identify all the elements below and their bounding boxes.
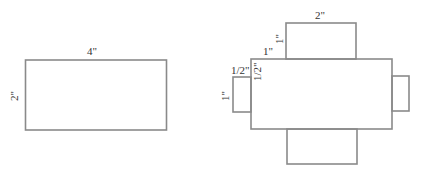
net-figure: 2" 1" 1" 1/2" 1/2" 1" <box>219 9 409 164</box>
net-right-tab <box>392 76 409 111</box>
main-offset-label: 1" <box>263 45 273 57</box>
left-tab-height-label: 1" <box>219 91 231 101</box>
diagram-canvas: 4" 2" 2" 1" 1" 1/2" 1/2" 1" <box>0 0 423 176</box>
top-tab-width-label: 2" <box>315 9 325 21</box>
rectangle-4x2 <box>26 60 167 130</box>
net-main-face <box>251 59 392 129</box>
top-tab-height-label: 1" <box>273 34 285 44</box>
net-bottom-tab <box>287 129 357 164</box>
left-rectangle-figure: 4" 2" <box>8 45 167 130</box>
net-top-tab <box>286 23 356 59</box>
left-tab-width-label: 1/2" <box>231 64 250 76</box>
height-label: 2" <box>8 91 20 101</box>
net-left-tab <box>233 77 251 112</box>
width-label: 4" <box>87 45 97 57</box>
left-tab-offset-label: 1/2" <box>251 62 263 81</box>
